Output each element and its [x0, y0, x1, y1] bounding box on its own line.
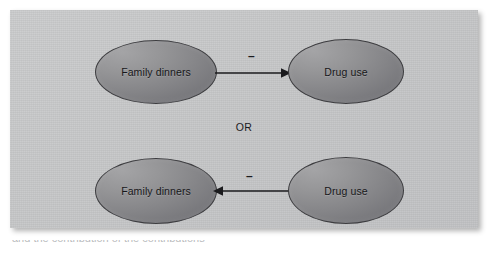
- node-label: Family dinners: [121, 66, 191, 78]
- node-drug-use-top[interactable]: Drug use: [288, 39, 404, 104]
- node-family-dinners-bottom[interactable]: Family dinners: [95, 158, 217, 224]
- edge-arrow-left-bottom[interactable]: [213, 180, 291, 202]
- figure-root: Family dinners – Drug use OR Family dinn…: [0, 0, 499, 253]
- caption-clipped: and the contribution of the contribution…: [12, 240, 342, 253]
- edge-sign-negative-top: –: [248, 50, 255, 62]
- node-drug-use-bottom[interactable]: Drug use: [288, 157, 404, 224]
- edge-arrow-right-top[interactable]: [215, 62, 291, 84]
- or-connector-label: OR: [10, 121, 478, 133]
- node-label: Drug use: [324, 185, 367, 197]
- node-label: Family dinners: [121, 185, 191, 197]
- edge-sign-negative-bottom: –: [246, 170, 253, 182]
- node-family-dinners-top[interactable]: Family dinners: [95, 40, 217, 104]
- caption-clipped-text: and the contribution of the contribution…: [12, 240, 342, 244]
- diagram-panel: Family dinners – Drug use OR Family dinn…: [10, 10, 478, 228]
- node-label: Drug use: [324, 66, 367, 78]
